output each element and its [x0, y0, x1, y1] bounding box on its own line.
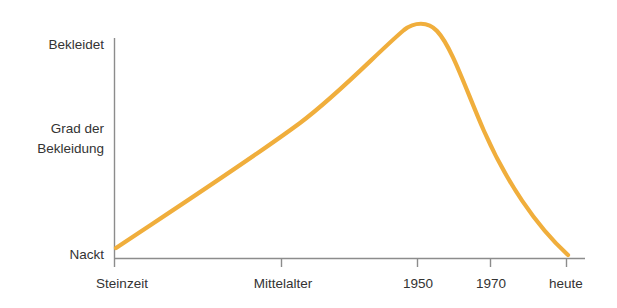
- x-axis-label-1950: 1950: [403, 276, 433, 291]
- x-axis-label-heute: heute: [549, 276, 583, 291]
- line-chart: Bekleidet Grad der Bekleidung Nackt Stei…: [0, 0, 617, 308]
- x-axis-label-steinzeit: Steinzeit: [96, 276, 148, 291]
- y-axis-label-top: Bekleidet: [48, 37, 104, 52]
- y-axis-label-bottom: Nackt: [69, 247, 104, 262]
- y-axis-title-line1: Grad der: [51, 121, 105, 136]
- x-axis-label-mittelalter: Mittelalter: [254, 276, 313, 291]
- chart-container: Bekleidet Grad der Bekleidung Nackt Stei…: [0, 0, 617, 308]
- y-axis-title-line2: Bekleidung: [37, 141, 104, 156]
- x-axis-label-1970: 1970: [476, 276, 506, 291]
